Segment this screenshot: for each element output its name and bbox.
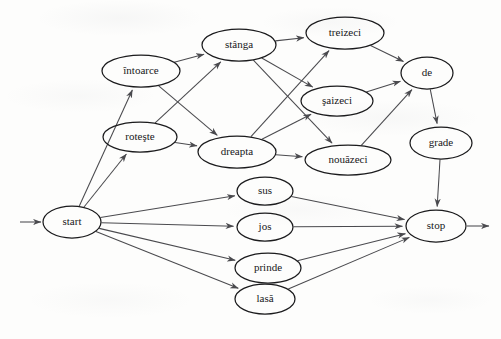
edge-jos-to-stop [294,226,403,227]
node-jos-label: jos [258,220,272,232]
edge-start-to-sus [100,196,235,218]
node-saizeci-label: şaizeci [322,94,352,106]
edge-start-to-jos [101,223,233,226]
edge-saizeci-to-de [366,81,400,92]
node-intoarce-label: întoarce [122,64,159,76]
edge-dreapta-to-saizeci [262,114,311,139]
edge-dreapta-to-treizeci [251,51,329,137]
node-treizeci[interactable]: treizeci [306,17,384,49]
edge-dreapta-to-nouazeci [276,155,302,157]
node-roteste-label: roteşte [125,130,154,142]
node-lasa[interactable]: lasă [235,284,295,314]
edge-stanga-to-saizeci [262,58,313,87]
edge-stanga-to-treizeci [275,38,304,41]
node-sus[interactable]: sus [237,177,293,205]
node-nouazeci-label: nouăzeci [328,153,367,165]
node-start-label: start [63,215,82,227]
edge-start-to-prinde [99,228,235,260]
node-saizeci[interactable]: şaizeci [301,86,373,116]
edge-de-to-grade [430,89,437,123]
node-stop[interactable]: stop [406,210,466,242]
edge-lasa-to-stop [288,237,409,289]
edge-nouazeci-to-de [361,90,412,146]
node-sus-label: sus [258,184,272,196]
node-roteste[interactable]: roteşte [103,122,177,152]
edge-roteste-to-stanga [155,62,221,123]
node-grade[interactable]: grade [410,127,472,159]
node-prinde-label: prinde [254,261,282,273]
graph-svg: startîntoarceroteştestângadreaptatreizec… [0,0,501,339]
node-nouazeci[interactable]: nouăzeci [305,145,391,175]
edge-start-to-lasa [96,232,238,289]
node-jos[interactable]: jos [237,213,293,241]
node-lasa-label: lasă [256,292,273,304]
edges-layer [20,38,489,289]
node-stanga[interactable]: stânga [202,29,276,61]
node-dreapta[interactable]: dreapta [198,136,276,168]
node-treizeci-label: treizeci [329,26,361,38]
edge-treizeci-to-de [371,45,404,61]
edge-roteste-to-dreapta [175,142,197,145]
node-stanga-label: stânga [225,38,253,50]
edge-prinde-to-stop [297,234,405,261]
node-grade-label: grade [429,136,454,148]
node-de[interactable]: de [401,57,453,89]
node-de-label: de [422,66,433,78]
nodes-layer: startîntoarceroteştestângadreaptatreizec… [43,17,472,314]
edge-stanga-to-nouazeci [253,60,332,143]
node-dreapta-label: dreapta [221,145,253,157]
node-start[interactable]: start [43,206,101,238]
node-stop-label: stop [427,219,446,231]
edge-start-to-roteste [84,154,126,207]
node-intoarce[interactable]: întoarce [102,55,180,87]
edge-sus-to-stop [291,196,404,219]
diagram-canvas: startîntoarceroteştestângadreaptatreizec… [0,0,501,339]
edge-start-to-intoarce [79,90,132,206]
edge-grade-to-stop [437,159,440,206]
edge-intoarce-to-stanga [174,54,204,62]
node-prinde[interactable]: prinde [235,253,301,283]
